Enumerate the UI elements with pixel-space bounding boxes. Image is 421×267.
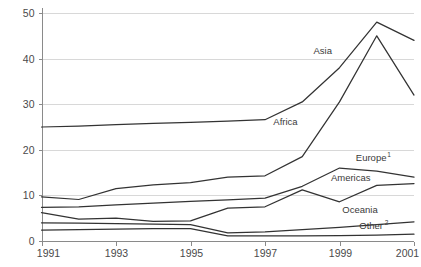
series-line-americas [42,184,415,222]
y-tick-label-30: 30 [23,98,35,110]
line-chart: 01020304050 199119931995199719992001 Asi… [0,0,421,267]
series-labels: AsiaAfricaEurope1AmericasOceaniaOther2 [273,45,391,231]
series-label-africa: Africa [273,116,298,127]
x-tick-label-1997: 1997 [254,247,278,259]
chart-canvas: 01020304050 199119931995199719992001 Asi… [0,0,421,267]
series-footnote-marker-europe: 1 [387,151,391,158]
series-label-other: Other [359,220,383,231]
series-label-oceania: Oceania [342,204,378,215]
gridlines [42,14,415,196]
series-label-europe: Europe [356,152,387,163]
y-axis-ticks: 01020304050 [23,7,43,247]
y-tick-label-0: 0 [29,235,35,247]
series-footnote-marker-other: 2 [385,219,389,226]
x-tick-label-1993: 1993 [105,247,129,259]
series-line-oceania [42,222,415,233]
x-tick-label-1999: 1999 [329,247,353,259]
series-label-asia: Asia [313,45,332,56]
x-tick-label-1995: 1995 [180,247,204,259]
series-line-asia [42,22,415,127]
x-axis-ticks: 199119931995199719992001 [37,242,420,259]
series-label-americas: Americas [331,172,371,183]
y-tick-label-20: 20 [23,144,35,156]
y-tick-label-40: 40 [23,53,35,65]
y-tick-label-10: 10 [23,189,35,201]
x-tick-label-2001: 2001 [396,247,420,259]
x-tick-label-1991: 1991 [37,247,61,259]
y-tick-label-50: 50 [23,7,35,19]
